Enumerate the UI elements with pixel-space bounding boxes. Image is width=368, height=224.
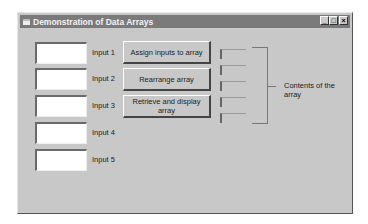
input-3-label: Input 3 xyxy=(92,101,115,110)
input-1-label: Input 1 xyxy=(92,48,115,57)
bracket-top-line xyxy=(252,47,267,48)
app-window: Demonstration of Data Arrays _ □ × Input… xyxy=(17,12,353,214)
window-title: Demonstration of Data Arrays xyxy=(33,17,153,27)
input-2-field[interactable] xyxy=(35,68,87,90)
window-icon xyxy=(23,19,30,25)
contents-of-array-label: Contents of the array xyxy=(284,81,350,99)
minimize-button[interactable]: _ xyxy=(320,16,329,25)
input-2-label: Input 2 xyxy=(92,74,115,83)
input-5-field[interactable] xyxy=(35,149,87,171)
retrieve-display-button[interactable]: Retrieve and display array xyxy=(123,95,211,118)
bracket-bottom-line xyxy=(252,123,268,124)
assign-inputs-button[interactable]: Assign inputs to array xyxy=(123,41,211,64)
close-button[interactable]: × xyxy=(339,16,348,25)
form-client-area: Input 1 Input 2 Input 3 Input 4 Input 5 … xyxy=(20,29,350,211)
input-3-field[interactable] xyxy=(35,95,87,117)
output-label-3 xyxy=(220,81,246,91)
input-5-label: Input 5 xyxy=(92,155,115,164)
output-label-5 xyxy=(220,113,246,123)
maximize-button[interactable]: □ xyxy=(329,16,338,25)
output-label-4 xyxy=(220,97,246,107)
title-bar[interactable]: Demonstration of Data Arrays _ □ × xyxy=(20,15,350,28)
input-4-field[interactable] xyxy=(35,122,87,144)
rearrange-array-button[interactable]: Rearrange array xyxy=(123,68,211,91)
input-1-field[interactable] xyxy=(35,42,87,64)
bracket-pointer-line xyxy=(267,86,276,87)
output-label-1 xyxy=(220,49,246,59)
output-label-2 xyxy=(220,65,246,75)
bracket-vertical-line xyxy=(267,47,268,123)
input-4-label: Input 4 xyxy=(92,128,115,137)
